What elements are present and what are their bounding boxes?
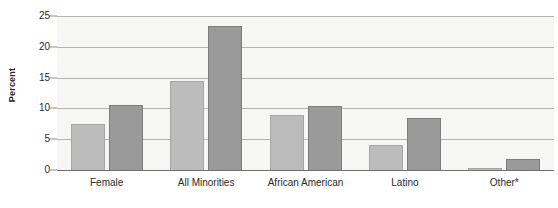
y-tick-mark xyxy=(50,16,57,17)
y-tick-mark xyxy=(50,108,57,109)
x-category-label: Female xyxy=(90,178,123,188)
y-tick-label: 5 xyxy=(24,134,50,144)
y-tick-mark xyxy=(50,77,57,78)
y-tick-label: 10 xyxy=(24,103,50,113)
bar xyxy=(270,115,304,170)
bar xyxy=(170,81,204,170)
gridline xyxy=(57,78,554,79)
bar xyxy=(208,26,242,170)
x-category-label: Other* xyxy=(490,178,519,188)
y-tick-mark xyxy=(50,139,57,140)
y-tick-label: 25 xyxy=(24,11,50,21)
gridline xyxy=(57,16,554,17)
bar-chart: Percent 0510152025 FemaleAll MinoritiesA… xyxy=(0,0,558,208)
y-tick-label: 15 xyxy=(24,73,50,83)
y-tick-label: 0 xyxy=(24,165,50,175)
gridline xyxy=(57,47,554,48)
x-category-label: African American xyxy=(268,178,344,188)
y-axis-title: Percent xyxy=(2,0,22,170)
plot-area xyxy=(57,16,554,170)
y-tick-mark xyxy=(50,170,57,171)
x-category-label: All Minorities xyxy=(178,178,235,188)
bar xyxy=(71,124,105,170)
y-axis-title-text: Percent xyxy=(7,68,17,102)
bar xyxy=(308,106,342,170)
y-tick-mark xyxy=(50,46,57,47)
bar xyxy=(506,159,540,170)
x-axis-line xyxy=(57,170,554,171)
y-axis-ticks: 0510152025 xyxy=(22,0,50,208)
x-category-label: Latino xyxy=(391,178,418,188)
bar xyxy=(407,118,441,170)
bar xyxy=(109,105,143,170)
bar xyxy=(369,145,403,170)
y-tick-label: 20 xyxy=(24,42,50,52)
